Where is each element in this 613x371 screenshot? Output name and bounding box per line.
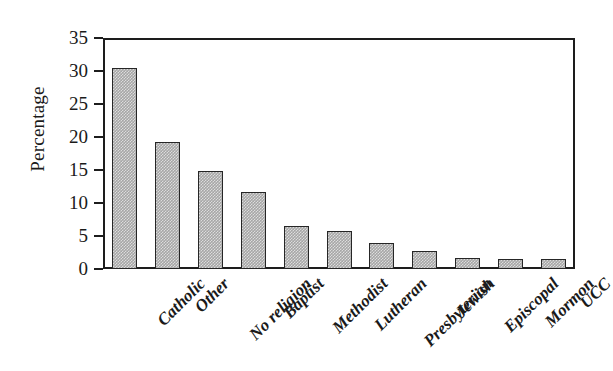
bar [112,68,137,269]
y-axis-tick-label: 15 [48,160,88,179]
bar [412,251,437,269]
bar [155,142,180,269]
y-axis-title: Percentage [27,49,49,209]
bar-chart-figure: Percentage 05101520253035 CatholicOtherN… [0,0,613,371]
y-axis-tick [94,70,103,72]
y-axis-tick [94,202,103,204]
bar [369,243,394,269]
y-axis-tick-label: 20 [48,127,88,146]
bar [241,192,266,269]
bar-series [103,38,575,269]
bar [498,259,523,269]
x-axis-tick-labels: CatholicOtherNo religionBaptistMethodist… [0,272,613,371]
y-axis-tick [94,169,103,171]
y-axis-tick-label: 10 [48,193,88,212]
y-axis-tick [94,103,103,105]
bar [284,226,309,269]
bar [541,259,566,269]
y-axis-tick [94,268,103,270]
bar [198,171,223,269]
y-axis-tick [94,136,103,138]
y-axis-tick-label: 30 [48,61,88,80]
y-axis-tick [94,37,103,39]
bar [327,231,352,269]
y-axis-tick [94,235,103,237]
y-axis-tick-label: 35 [48,28,88,47]
y-axis-tick-label: 25 [48,94,88,113]
bar [455,258,480,269]
y-axis-tick-label: 5 [48,226,88,245]
